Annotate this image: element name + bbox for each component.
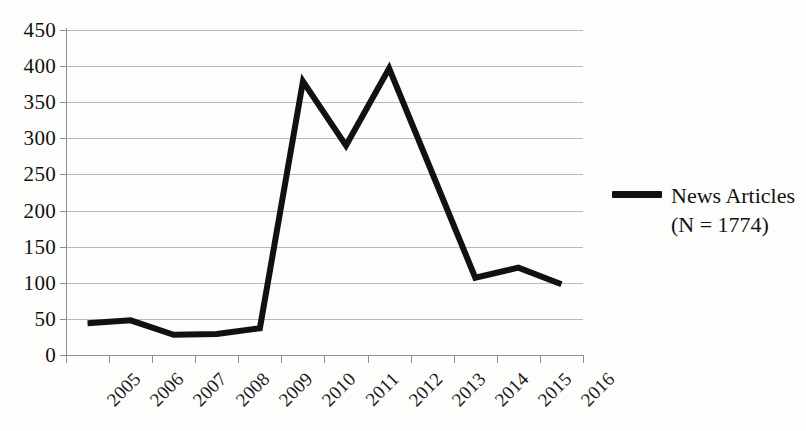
y-axis-tick-labels: 450 400 350 300 250 200 150 100 50 0 — [0, 0, 56, 431]
gridline-450 — [66, 30, 583, 31]
x-axis-line — [66, 355, 584, 356]
y-tick-mark-250 — [60, 174, 66, 175]
y-tick-label-150: 150 — [2, 237, 56, 258]
y-tick-label-200: 200 — [2, 201, 56, 222]
x-tick-label-2008: 2008 — [231, 368, 274, 411]
x-tick-label-2011: 2011 — [361, 368, 404, 411]
legend-label-news-articles: News Articles — [671, 183, 795, 208]
y-tick-label-300: 300 — [2, 128, 56, 149]
gridline-50 — [66, 319, 583, 320]
x-tick-label-2012: 2012 — [404, 368, 447, 411]
x-tick-mark-1 — [109, 356, 110, 363]
y-tick-mark-200 — [60, 211, 66, 212]
y-tick-label-100: 100 — [2, 273, 56, 294]
x-tick-label-2009: 2009 — [274, 368, 317, 411]
x-tick-label-2010: 2010 — [317, 368, 360, 411]
gridline-350 — [66, 102, 583, 103]
gridline-100 — [66, 283, 583, 284]
x-tick-mark-9 — [454, 356, 455, 363]
x-tick-label-2014: 2014 — [490, 368, 533, 411]
y-tick-mark-50 — [60, 319, 66, 320]
x-tick-mark-3 — [195, 356, 196, 363]
y-tick-mark-300 — [60, 138, 66, 139]
x-tick-mark-6 — [324, 356, 325, 363]
legend-label-sample-size: (N = 1774) — [671, 210, 795, 239]
x-tick-label-2016: 2016 — [576, 368, 619, 411]
legend: News Articles (N = 1774) — [612, 181, 802, 239]
x-tick-mark-4 — [238, 356, 239, 363]
y-tick-label-350: 350 — [2, 92, 56, 113]
x-tick-mark-11 — [540, 356, 541, 363]
y-tick-mark-400 — [60, 66, 66, 67]
y-tick-label-400: 400 — [2, 56, 56, 77]
y-tick-label-0: 0 — [2, 345, 56, 366]
gridline-300 — [66, 138, 583, 139]
x-tick-mark-5 — [281, 356, 282, 363]
x-tick-mark-10 — [497, 356, 498, 363]
y-axis-line — [66, 28, 67, 357]
x-tick-mark-8 — [411, 356, 412, 363]
y-tick-mark-350 — [60, 102, 66, 103]
y-tick-mark-100 — [60, 283, 66, 284]
x-tick-label-2013: 2013 — [447, 368, 490, 411]
legend-label-group: News Articles (N = 1774) — [671, 181, 795, 239]
gridline-400 — [66, 66, 583, 67]
x-tick-label-2007: 2007 — [188, 368, 231, 411]
x-tick-mark-2 — [152, 356, 153, 363]
plot-area — [66, 30, 583, 355]
x-tick-mark-0 — [66, 356, 67, 363]
x-tick-label-2005: 2005 — [102, 368, 145, 411]
gridline-150 — [66, 247, 583, 248]
gridline-250 — [66, 174, 583, 175]
news-articles-line-swatch — [612, 191, 662, 198]
gridline-200 — [66, 211, 583, 212]
x-tick-mark-12 — [583, 356, 584, 363]
x-tick-label-2006: 2006 — [145, 368, 188, 411]
chart-page: 450 400 350 300 250 200 150 100 50 0 200… — [0, 0, 806, 431]
legend-entry-news-articles: News Articles (N = 1774) — [612, 181, 802, 239]
y-tick-mark-150 — [60, 247, 66, 248]
y-tick-label-450: 450 — [2, 20, 56, 41]
x-tick-label-2015: 2015 — [533, 368, 576, 411]
x-tick-mark-7 — [368, 356, 369, 363]
y-tick-mark-450 — [60, 30, 66, 31]
y-tick-label-50: 50 — [2, 309, 56, 330]
y-tick-label-250: 250 — [2, 164, 56, 185]
